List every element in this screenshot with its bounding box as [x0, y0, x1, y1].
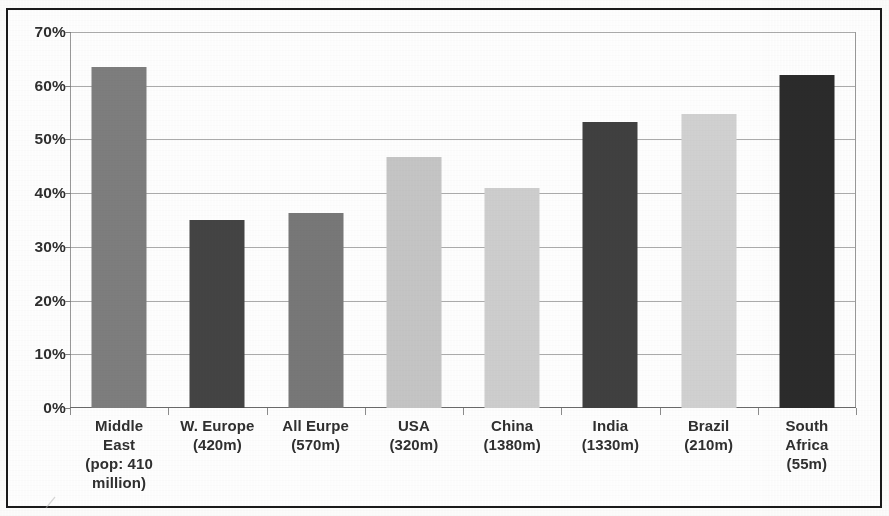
- bar: [681, 114, 736, 408]
- x-axis-tick-mark: [267, 408, 268, 415]
- bar: [288, 213, 343, 408]
- x-axis-tick-label-line: China: [463, 416, 561, 435]
- x-axis-tick-mark: [70, 408, 71, 415]
- bar: [386, 157, 441, 408]
- x-axis-tick-mark: [561, 408, 562, 415]
- bar: [485, 188, 540, 408]
- bar: [92, 67, 147, 408]
- bar-series: [70, 32, 856, 408]
- x-axis-tick-label-line: India: [561, 416, 659, 435]
- x-axis-tick-label-line: All Eurpe: [267, 416, 365, 435]
- x-axis-tick-mark: [660, 408, 661, 415]
- x-axis-tick-label-line: (420m): [168, 435, 266, 454]
- x-axis: MiddleEast(pop: 410million)W. Europe(420…: [70, 416, 856, 516]
- x-axis-tick-label: All Eurpe(570m): [267, 416, 365, 454]
- y-axis-tick-label: 0%: [10, 399, 66, 417]
- x-axis-tick-label-line: South: [758, 416, 856, 435]
- bar: [583, 122, 638, 408]
- x-axis-tick-label-line: USA: [365, 416, 463, 435]
- y-axis-tick-label: 70%: [10, 23, 66, 41]
- x-axis-tick-label-line: (210m): [660, 435, 758, 454]
- bar-slot: [660, 32, 758, 408]
- x-axis-tick-label-line: Africa: [758, 435, 856, 454]
- y-axis: 70%60%50%40%30%20%10%0%: [8, 32, 66, 408]
- x-axis-tick-label-line: East: [70, 435, 168, 454]
- bar-chart: 70%60%50%40%30%20%10%0% MiddleEast(pop: …: [8, 10, 880, 506]
- x-axis-tick-label-line: (pop: 410: [70, 454, 168, 473]
- x-axis-tick-mark: [365, 408, 366, 415]
- x-axis-tick-label: Brazil(210m): [660, 416, 758, 454]
- x-axis-tick-label: India(1330m): [561, 416, 659, 454]
- bar-slot: [561, 32, 659, 408]
- x-axis-tick-label-line: Brazil: [660, 416, 758, 435]
- x-axis-tick-label: MiddleEast(pop: 410million): [70, 416, 168, 492]
- x-axis-tick-label: W. Europe(420m): [168, 416, 266, 454]
- scanned-page: 70%60%50%40%30%20%10%0% MiddleEast(pop: …: [0, 0, 889, 516]
- bar: [190, 220, 245, 408]
- x-axis-tick-mark: [168, 408, 169, 415]
- bar-slot: [758, 32, 856, 408]
- x-axis-tick-mark: [856, 408, 857, 415]
- bar-slot: [168, 32, 266, 408]
- y-axis-tick-label: 20%: [10, 292, 66, 310]
- x-axis-tick-mark: [463, 408, 464, 415]
- x-axis-tick-label-line: (1380m): [463, 435, 561, 454]
- y-axis-tick-label: 30%: [10, 238, 66, 256]
- bar-slot: [463, 32, 561, 408]
- x-axis-tick-label-line: (570m): [267, 435, 365, 454]
- x-axis-tick-mark: [758, 408, 759, 415]
- x-axis-tick-label: China(1380m): [463, 416, 561, 454]
- y-axis-tick-label: 60%: [10, 77, 66, 95]
- x-axis-tick-label-line: (55m): [758, 454, 856, 473]
- x-axis-ticks: [70, 408, 856, 416]
- x-axis-tick-label-line: million): [70, 473, 168, 492]
- bar-slot: [267, 32, 365, 408]
- bar-slot: [70, 32, 168, 408]
- x-axis-tick-label-line: Middle: [70, 416, 168, 435]
- scan-artifact-icon: [44, 496, 60, 510]
- y-axis-tick-label: 10%: [10, 345, 66, 363]
- x-axis-tick-label-line: (1330m): [561, 435, 659, 454]
- bar: [779, 75, 834, 408]
- bar-slot: [365, 32, 463, 408]
- x-axis-tick-label-line: (320m): [365, 435, 463, 454]
- x-axis-tick-label: SouthAfrica(55m): [758, 416, 856, 473]
- x-axis-tick-label-line: W. Europe: [168, 416, 266, 435]
- y-axis-tick-label: 50%: [10, 130, 66, 148]
- y-axis-tick-label: 40%: [10, 184, 66, 202]
- x-axis-tick-label: USA(320m): [365, 416, 463, 454]
- figure-frame: 70%60%50%40%30%20%10%0% MiddleEast(pop: …: [6, 8, 882, 508]
